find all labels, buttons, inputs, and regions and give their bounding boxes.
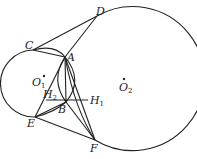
label-a: A xyxy=(66,51,75,64)
geometry-diagram: C D A B E F O1 O2 H1 H2 xyxy=(0,0,197,159)
circle-o1 xyxy=(0,50,35,117)
segment-ca xyxy=(33,50,65,57)
segment-cd xyxy=(33,16,97,50)
label-h2: H2 xyxy=(42,88,57,102)
label-e: E xyxy=(26,117,35,130)
center-o1-dot xyxy=(43,75,45,77)
label-b: B xyxy=(57,103,66,116)
circle-o2 xyxy=(95,7,197,151)
center-o2-dot xyxy=(123,78,125,80)
label-f: F xyxy=(89,142,98,155)
label-h1: H1 xyxy=(89,94,104,108)
point-b-dot xyxy=(65,100,68,103)
label-c: C xyxy=(25,39,34,52)
label-d: D xyxy=(95,5,105,18)
label-o2: O2 xyxy=(119,81,133,95)
